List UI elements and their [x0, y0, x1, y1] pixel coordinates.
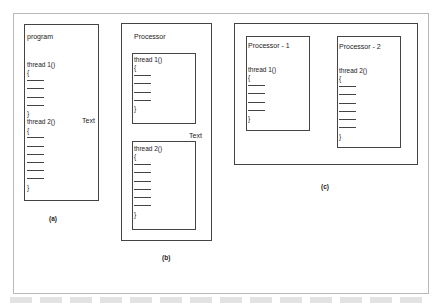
close-brace: } [134, 211, 162, 219]
open-brace: { [27, 69, 55, 77]
text-label: Text [82, 117, 95, 126]
code-line [134, 81, 162, 89]
thread-2-code: thread 2() { } [134, 145, 162, 219]
code-line [248, 107, 276, 115]
open-brace: { [27, 127, 55, 135]
code-line [134, 97, 162, 105]
thread-header: thread 1() [248, 66, 276, 74]
code-line [27, 94, 55, 102]
code-line [248, 91, 276, 99]
open-brace: { [248, 74, 276, 82]
thread-1-code: thread 1() { } [248, 66, 276, 123]
open-brace: { [134, 153, 162, 161]
processor-2-box: Processor - 2 thread 2() { } [337, 36, 401, 148]
code-line [27, 143, 55, 151]
code-line [134, 170, 162, 178]
code-line [134, 194, 162, 202]
caption-a: (a) [49, 215, 57, 222]
code-line [134, 89, 162, 97]
close-brace: } [27, 110, 55, 118]
thread-2-code: thread 2() { } [339, 67, 367, 141]
code-line [339, 100, 367, 108]
code-line [339, 108, 367, 116]
caption-c: (c) [321, 183, 329, 190]
code-line [27, 159, 55, 167]
thread-header: thread 2() [27, 118, 55, 126]
code-line [339, 124, 367, 132]
thread-1-block: thread 1() { } thread 2() { } [27, 61, 55, 192]
code-line [27, 102, 55, 110]
caption-b: (b) [162, 254, 170, 261]
program-box: program thread 1() { } thread 2() { } Te… [24, 24, 99, 201]
multiprocessor-frame: Processor - 1 thread 1() { } Processor -… [234, 23, 418, 165]
code-line [27, 176, 55, 184]
code-line [134, 72, 162, 80]
processor-1-title: Processor - 1 [248, 42, 290, 51]
code-line [134, 161, 162, 169]
close-brace: } [134, 105, 162, 113]
code-line [27, 167, 55, 175]
code-line [248, 99, 276, 107]
thread-2-box: thread 2() { } [132, 141, 196, 230]
processor-title: Processor [134, 33, 166, 42]
processor-1-box: Processor - 1 thread 1() { } [246, 36, 310, 131]
thread-header: thread 1() [27, 61, 55, 69]
thread-header: thread 2() [339, 67, 367, 75]
code-line [27, 77, 55, 85]
thread-header: thread 1() [134, 56, 162, 64]
code-line [134, 202, 162, 210]
program-title: program [27, 33, 53, 42]
processor-box: Processor thread 1() { } Text thread 2()… [121, 23, 212, 241]
thread-1-box: thread 1() { } [132, 53, 196, 124]
code-line [339, 116, 367, 124]
close-brace: } [27, 184, 55, 192]
code-line [339, 83, 367, 91]
close-brace: } [339, 133, 367, 141]
code-line [248, 82, 276, 90]
code-line [134, 178, 162, 186]
code-line [339, 92, 367, 100]
code-line [27, 151, 55, 159]
thread-1-code: thread 1() { } [134, 56, 162, 113]
thread-header: thread 2() [134, 145, 162, 153]
cropped-caption-text [10, 297, 430, 303]
open-brace: { [339, 75, 367, 83]
open-brace: { [134, 64, 162, 72]
code-line [134, 186, 162, 194]
close-brace: } [248, 115, 276, 123]
code-line [27, 135, 55, 143]
processor-2-title: Processor - 2 [339, 43, 381, 52]
text-label: Text [189, 132, 202, 141]
code-line [27, 86, 55, 94]
